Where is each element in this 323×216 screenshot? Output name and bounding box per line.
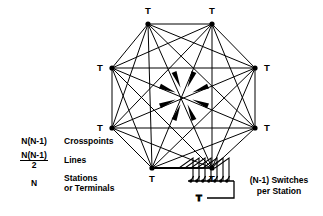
station-node <box>149 165 154 170</box>
inward-arrow <box>187 104 196 121</box>
legend-label-lines: Lines <box>58 156 86 166</box>
legend-symbol-stations: N <box>10 179 58 189</box>
mesh-link <box>148 24 255 128</box>
station-node-label: T <box>145 5 151 16</box>
fraction-denominator: 2 <box>20 161 48 170</box>
legend-label-crosspoints: Crosspoints <box>58 137 114 147</box>
station-node <box>145 21 150 26</box>
station-node-label: T <box>209 173 215 184</box>
mesh-link <box>152 24 212 168</box>
mesh-link <box>152 128 255 168</box>
legend-row-crosspoints: N(N-1) Crosspoints <box>10 135 132 148</box>
legend-label-stations: Stations or Terminals <box>58 173 114 193</box>
station-node-label: T <box>264 62 270 73</box>
mesh-link <box>212 24 255 68</box>
station-node-label: T <box>97 62 103 73</box>
inward-arrow <box>159 99 176 108</box>
station-node <box>252 65 257 70</box>
switch-contact-pivot <box>220 180 222 182</box>
mesh-link <box>112 24 148 68</box>
figure-root: T TTTTTTTT N(N-1) Crosspoints N(N-1) 2 L… <box>0 0 323 216</box>
mesh-link <box>112 24 212 68</box>
station-node <box>109 125 114 130</box>
legend-symbol-crosspoints: N(N-1) <box>10 137 58 147</box>
legend-symbol-lines: N(N-1) 2 <box>10 151 58 170</box>
switch-contact-pivot <box>202 180 204 182</box>
station-tail <box>152 158 211 181</box>
station-node-label: T <box>264 122 270 133</box>
switch-caption: (N-1) Switches per Station <box>236 175 322 196</box>
switch-contact-pivot <box>190 180 192 182</box>
station-tail <box>152 158 205 181</box>
center-arrow-group <box>159 71 209 121</box>
legend-row-stations: N Stations or Terminals <box>10 173 132 193</box>
station-node <box>109 65 114 70</box>
switch-station-label: T <box>196 192 202 203</box>
fraction-lines: N(N-1) 2 <box>20 151 48 169</box>
mesh-link <box>152 68 255 168</box>
inward-arrow <box>192 99 209 108</box>
legend-row-lines: N(N-1) 2 Lines <box>10 151 132 170</box>
switch-caption-line1: (N-1) Switches <box>236 175 322 186</box>
station-node-label: T <box>209 5 215 16</box>
mesh-link <box>112 24 212 128</box>
mesh-link <box>148 24 152 168</box>
station-node <box>209 21 214 26</box>
legend: N(N-1) Crosspoints N(N-1) 2 Lines N Stat… <box>10 135 132 197</box>
station-tail-group <box>152 158 229 181</box>
switch-contact-pivot <box>226 180 228 182</box>
inward-arrow <box>172 104 181 121</box>
legend-label-stations-line1: Stations <box>64 173 114 183</box>
switch-contact-pivot <box>196 180 198 182</box>
mesh-link <box>212 128 255 168</box>
station-node <box>252 125 257 130</box>
mesh-link-group <box>112 24 255 168</box>
switch-caption-line2: per Station <box>236 186 322 197</box>
station-tail <box>152 158 217 181</box>
mesh-link <box>148 24 255 68</box>
station-node-label: T <box>97 122 103 133</box>
station-node-label: T <box>149 173 155 184</box>
station-node <box>209 165 214 170</box>
legend-label-stations-line2: or Terminals <box>64 183 114 193</box>
